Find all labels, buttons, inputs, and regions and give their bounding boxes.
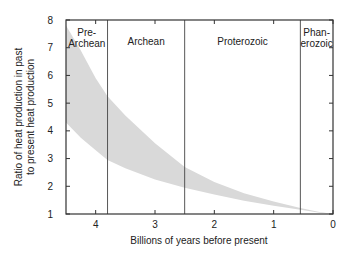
heat-production-chart: Pre-ArcheanArcheanProterozoicPhan-erozoi…: [0, 0, 347, 262]
heat-production-band: [66, 26, 333, 215]
era-label-pre-archean: Pre-: [77, 27, 96, 38]
y-tick-label: 6: [47, 70, 53, 81]
x-tick-label: 2: [212, 219, 218, 230]
y-tick-label: 2: [47, 181, 53, 192]
y-axis-label-line: to present heat production: [25, 59, 36, 175]
x-tick-label: 0: [330, 219, 336, 230]
y-tick-label: 5: [47, 98, 53, 109]
x-tick-label: 4: [93, 219, 99, 230]
y-tick-label: 4: [47, 125, 53, 136]
y-tick-label: 3: [47, 153, 53, 164]
era-label-phanerozoic: Phan-: [303, 27, 330, 38]
era-label-proterozoic: Proterozoic: [217, 36, 268, 47]
y-tick-label: 8: [47, 15, 53, 26]
x-tick-label: 1: [271, 219, 277, 230]
y-axis-label: Ratio of heat production in pastto prese…: [13, 48, 36, 187]
x-tick-label: 3: [152, 219, 158, 230]
y-axis-label-line: Ratio of heat production in past: [13, 48, 24, 187]
y-tick-label: 1: [47, 209, 53, 220]
y-tick-label: 7: [47, 42, 53, 53]
uncertainty-band: [66, 26, 333, 215]
era-label-phanerozoic: erozoic: [301, 38, 333, 49]
era-label-pre-archean: Archean: [68, 38, 105, 49]
x-axis-label: Billions of years before present: [130, 235, 268, 246]
era-label-archean: Archean: [127, 36, 164, 47]
